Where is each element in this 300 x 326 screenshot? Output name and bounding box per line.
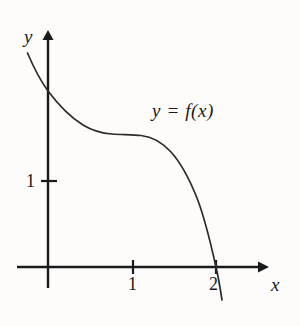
x-tick-label-2: 2 — [209, 275, 218, 293]
function-curve-path — [28, 53, 223, 300]
x-tick-label-1: 1 — [128, 275, 137, 293]
function-equation-label: y = f(x) — [152, 101, 214, 120]
y-tick-label-1: 1 — [26, 172, 35, 190]
x-axis-arrowhead — [258, 262, 269, 273]
x-axis-label: x — [271, 275, 279, 294]
y-axis-arrowhead — [43, 30, 54, 40]
plot-canvas — [0, 0, 300, 326]
y-axis-label: y — [24, 27, 32, 46]
function-graph-figure: y x 1 1 2 y = f(x) — [0, 0, 300, 326]
